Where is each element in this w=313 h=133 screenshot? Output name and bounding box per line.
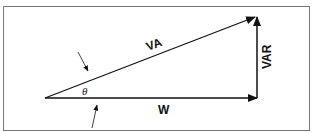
power-triangle-diagram: VA W VAR θ: [0, 0, 313, 133]
w-label: W: [158, 103, 170, 117]
theta-label: θ: [82, 85, 88, 97]
var-label: VAR: [260, 44, 274, 69]
